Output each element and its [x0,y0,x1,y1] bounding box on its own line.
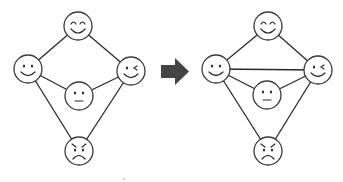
node-angry [65,137,93,165]
node-circle [254,137,282,165]
graph-after [202,12,332,165]
node-circle [64,12,92,40]
node-angry [254,137,282,165]
node-circle [117,57,145,85]
graph-before [14,12,145,165]
arrow-shape [161,58,189,85]
node-circle [304,56,332,84]
node-circle [253,81,281,109]
network-diagram [0,0,343,182]
diagram-canvas [0,0,343,182]
node-neutral [253,81,281,109]
edge-smile-wink [216,69,318,70]
node-circle [254,12,282,40]
artifact-speck [123,178,125,180]
node-circle [14,55,42,83]
node-smile [202,55,230,83]
node-neutral [65,82,93,110]
node-circle [65,82,93,110]
node-circle [65,137,93,165]
node-circle [202,55,230,83]
node-happy [254,12,282,40]
right-arrow-icon [161,58,189,85]
node-smile [14,55,42,83]
node-wink [117,57,145,85]
node-happy [64,12,92,40]
node-wink [304,56,332,84]
